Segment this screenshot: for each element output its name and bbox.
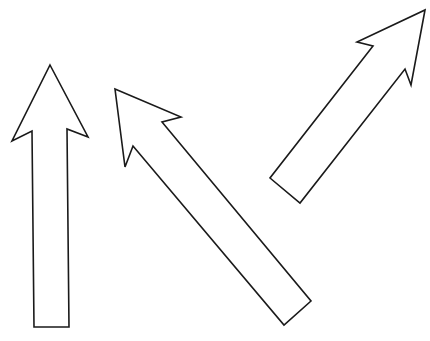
- diagonal-up-left-arrow-icon: [115, 89, 311, 325]
- arrows-drawing: [0, 0, 430, 341]
- diagonal-up-right-arrow-icon: [270, 10, 425, 203]
- cropped-top-text: [0, 0, 430, 5]
- arrow-figure: [0, 0, 430, 341]
- vertical-up-arrow-icon: [12, 65, 88, 327]
